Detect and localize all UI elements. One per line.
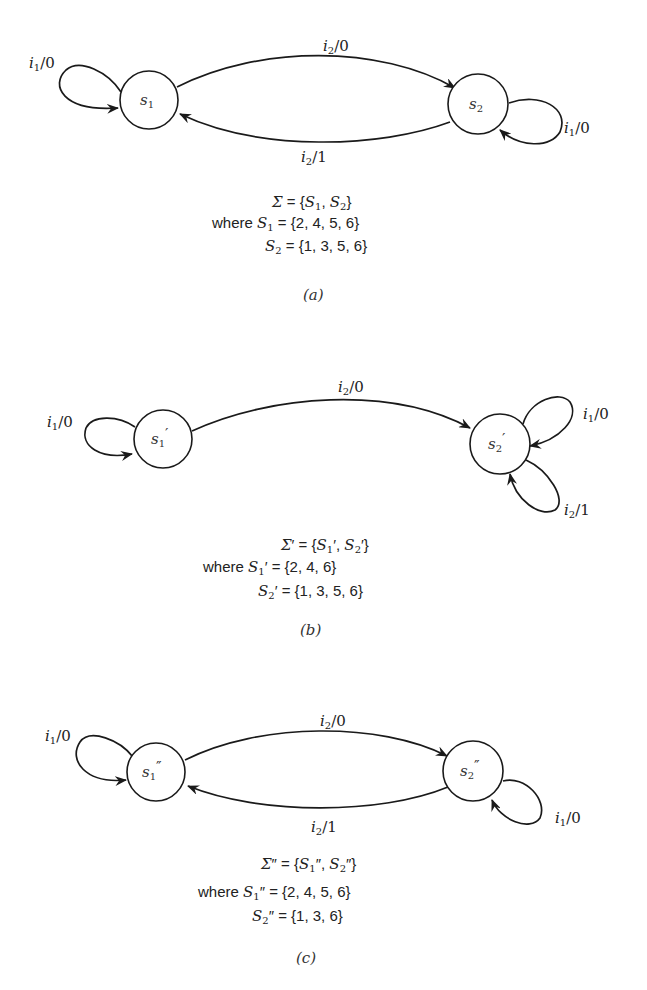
edge-b-s2-upper-loop xyxy=(523,397,573,446)
caption-b: (b) xyxy=(300,621,321,639)
edge-label-b-s2-lower-loop: i2/1 xyxy=(564,501,590,520)
edge-label-b-s1-to-s2: i2/0 xyxy=(338,378,364,397)
equation-a-sigma: Σ = {S1, S2} xyxy=(272,193,351,211)
equation-b-s2: S2′ = {1, 3, 5, 6} xyxy=(258,582,363,600)
edge-label-a-s1-loop: i1/0 xyxy=(29,54,55,73)
edge-label-a-s2-loop: i1/0 xyxy=(564,119,590,138)
edge-label-b-s2-upper-loop: i1/0 xyxy=(583,405,609,424)
edge-label-b-s1-loop: i1/0 xyxy=(47,413,73,432)
figure-c-diagram: s1″ s2″ i1/0 i2/0 i2/1 i1/0 xyxy=(45,712,581,837)
edge-a-s1-to-s2 xyxy=(177,56,455,88)
edge-c-s2-to-s1 xyxy=(188,786,448,808)
edge-b-s1-self-loop xyxy=(85,418,135,455)
edge-label-a-s1-to-s2: i2/0 xyxy=(323,37,349,56)
equation-c-s1: where S1″ = {2, 4, 5, 6} xyxy=(198,883,351,901)
equation-c-sigma: Σ″ = {S1″, S2″} xyxy=(261,855,356,873)
edge-a-s1-self-loop xyxy=(59,66,121,109)
equation-a-s2: S2 = {1, 3, 5, 6} xyxy=(265,237,367,255)
figure-b-diagram: s1′ s2′ i1/0 i2/0 i1/0 i2/1 xyxy=(47,378,609,520)
edge-label-a-s2-to-s1: i2/1 xyxy=(301,148,327,167)
caption-c: (c) xyxy=(296,949,316,967)
edge-label-c-s1-loop: i1/0 xyxy=(45,727,71,746)
state-diagrams-canvas: s1 s2 i1/0 i2/0 i2/1 i1/0 s1′ s2′ i1/0 i… xyxy=(0,0,647,990)
edge-a-s2-to-s1 xyxy=(180,114,450,142)
edge-a-s2-self-loop xyxy=(500,99,562,143)
figure-a-diagram: s1 s2 i1/0 i2/0 i2/1 i1/0 xyxy=(29,37,590,167)
edge-label-c-s2-to-s1: i2/1 xyxy=(311,818,337,837)
equation-b-sigma: Σ′ = {S1′, S2′} xyxy=(281,536,369,554)
equation-a-s1: where S1 = {2, 4, 5, 6} xyxy=(212,214,359,232)
edge-label-c-s2-loop: i1/0 xyxy=(555,809,581,828)
equation-b-s1: where S1′ = {2, 4, 6} xyxy=(203,558,336,576)
edge-c-s1-self-loop xyxy=(76,736,133,781)
equation-c-s2: S2″ = {1, 3, 6} xyxy=(252,907,343,925)
caption-a: (a) xyxy=(303,286,324,304)
edge-c-s1-to-s2 xyxy=(185,731,447,760)
edge-label-c-s1-to-s2: i2/0 xyxy=(320,712,346,731)
edge-b-s1-to-s2 xyxy=(192,400,470,431)
